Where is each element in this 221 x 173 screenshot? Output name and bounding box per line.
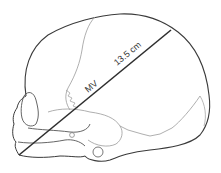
ear-opening xyxy=(93,147,103,157)
skull-outline xyxy=(25,14,210,161)
orbit xyxy=(21,93,38,126)
zygomatic-arch xyxy=(28,124,90,132)
mv-label: MV xyxy=(83,78,100,94)
measure-value-label: 13.5 cm xyxy=(112,39,143,67)
face-outline xyxy=(13,96,85,157)
temporal-bone xyxy=(48,109,122,146)
mastoid xyxy=(70,133,75,138)
fetal-skull-diagram: MV 13.5 cm xyxy=(0,0,221,173)
mandible xyxy=(18,140,85,146)
lambdoid-suture xyxy=(120,96,200,136)
occipital-suture xyxy=(200,96,205,126)
mentovertical-measure-line xyxy=(19,30,171,155)
